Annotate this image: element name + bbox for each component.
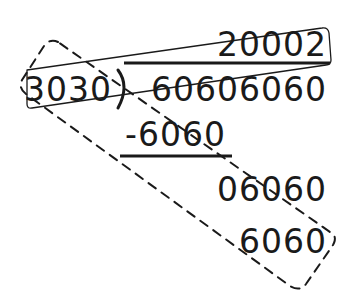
division-bracket — [118, 70, 124, 108]
dividend: 60606060 — [151, 70, 327, 109]
subtraction-step-1: -6060 — [125, 115, 226, 154]
long-division-diagram: 20002 3030 60606060 -6060 06060 6060 — [0, 0, 351, 294]
remainder-row: 06060 — [217, 170, 327, 209]
quotient: 20002 — [217, 25, 327, 64]
divisor: 3030 — [24, 70, 112, 109]
subtraction-step-2: 6060 — [239, 222, 327, 261]
